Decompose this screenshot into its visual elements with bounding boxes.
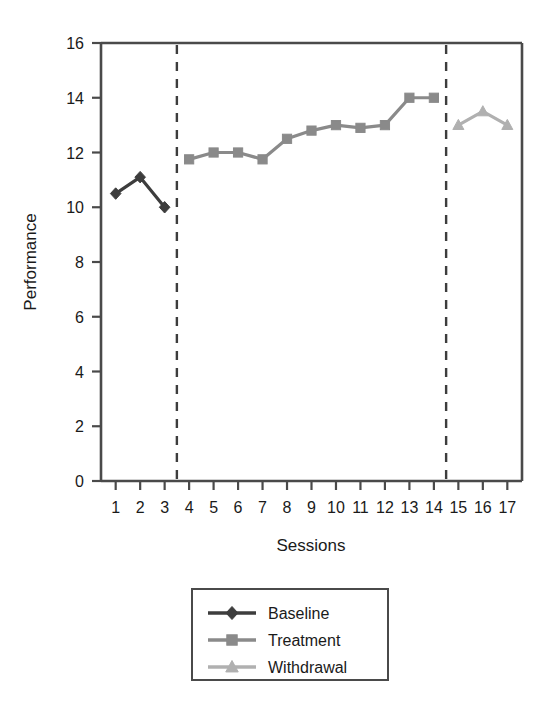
x-tick-label-7: 7 [258, 499, 267, 516]
y-tick-label-4: 4 [75, 364, 84, 381]
data-point-4 [185, 155, 194, 164]
data-point-11 [356, 123, 365, 132]
y-tick-label-12: 12 [66, 145, 84, 162]
legend-marker-square-icon [227, 635, 237, 645]
y-tick-label-16: 16 [66, 35, 84, 52]
y-tick-label-0: 0 [75, 473, 84, 490]
x-tick-label-8: 8 [283, 499, 292, 516]
x-tick-label-14: 14 [425, 499, 443, 516]
chart-figure: 0 2 4 6 8 10 12 14 16 Performance 123456… [0, 0, 554, 717]
data-point-5 [209, 148, 218, 157]
legend-label: Withdrawal [268, 659, 347, 676]
x-tick-label-9: 9 [307, 499, 316, 516]
y-tick-label-6: 6 [75, 309, 84, 326]
y-axis-title: Performance [21, 213, 40, 310]
y-tick-label-14: 14 [66, 90, 84, 107]
data-point-10 [331, 121, 340, 130]
performance-session-chart: 0 2 4 6 8 10 12 14 16 Performance 123456… [0, 0, 554, 717]
x-tick-label-16: 16 [474, 499, 492, 516]
data-point-6 [233, 148, 242, 157]
y-tick-label-8: 8 [75, 254, 84, 271]
data-point-13 [405, 93, 414, 102]
x-tick-label-13: 13 [401, 499, 419, 516]
data-point-8 [282, 134, 291, 143]
x-axis-title: Sessions [277, 536, 346, 555]
x-tick-label-11: 11 [352, 499, 369, 516]
x-tick-label-2: 2 [136, 499, 145, 516]
x-tick-label-3: 3 [160, 499, 169, 516]
x-tick-label-5: 5 [209, 499, 218, 516]
y-tick-label-2: 2 [75, 418, 84, 435]
x-tick-label-4: 4 [185, 499, 194, 516]
x-tick-label-1: 1 [111, 499, 120, 516]
legend-label: Treatment [268, 632, 341, 649]
legend-entries: BaselineTreatmentWithdrawal [208, 605, 347, 676]
x-tick-label-12: 12 [376, 499, 394, 516]
data-point-7 [258, 155, 267, 164]
x-tick-label-10: 10 [327, 499, 345, 516]
x-tick-label-15: 15 [449, 499, 467, 516]
data-point-12 [380, 121, 389, 130]
data-point-14 [429, 93, 438, 102]
legend-label: Baseline [268, 605, 329, 622]
chart-legend: BaselineTreatmentWithdrawal [192, 589, 388, 680]
x-tick-label-6: 6 [234, 499, 243, 516]
y-tick-label-10: 10 [66, 199, 84, 216]
data-point-9 [307, 126, 316, 135]
x-tick-label-17: 17 [498, 499, 516, 516]
